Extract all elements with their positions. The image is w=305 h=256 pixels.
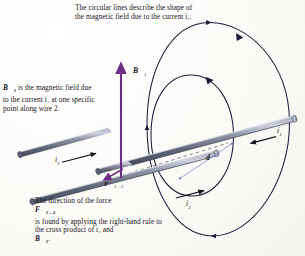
label-current-1: i1 bbox=[277, 126, 282, 137]
figure-canvas: The circular lines describe the shape of… bbox=[0, 0, 305, 256]
label-current-2-right-sub: 2 bbox=[188, 205, 191, 210]
label-b-field-sub: 1 bbox=[144, 72, 147, 77]
label-current-1-sub: 1 bbox=[279, 132, 282, 137]
label-current-2-right: i2 bbox=[186, 199, 191, 210]
caption-bottom-force-symbol: F⃗1→2 bbox=[35, 205, 55, 214]
caption-bottom-line2: is found by applying the right-hand rule… bbox=[35, 217, 162, 235]
caption-left-vector-symbol: B⃗1 bbox=[3, 83, 16, 92]
caption-left: B⃗1 is the magnetic field due to the cur… bbox=[3, 84, 95, 113]
caption-bottom-force-sub: 1→2 bbox=[46, 210, 56, 215]
caption-top: The circular lines describe the shape of… bbox=[75, 4, 197, 21]
current-1-arrow bbox=[251, 137, 277, 144]
label-b-field: B⃗1 bbox=[133, 66, 146, 77]
caption-left-vector-sub: 1 bbox=[14, 88, 16, 93]
wire-2-left-stub bbox=[17, 128, 112, 158]
label-current-2-left: i2 bbox=[55, 155, 60, 166]
caption-left-text: is the magnetic field due to the current… bbox=[3, 83, 95, 113]
caption-bottom-line1: The direction of the force bbox=[35, 196, 111, 205]
caption-bottom: The direction of the force F⃗1→2 is foun… bbox=[35, 197, 163, 247]
current-2-arrow-left bbox=[62, 153, 96, 162]
caption-bottom-period: . bbox=[48, 234, 50, 243]
label-force-sub: 1→2 bbox=[114, 184, 123, 189]
label-force: F⃗1→2 bbox=[104, 180, 123, 189]
field-line-outer bbox=[147, 23, 290, 237]
label-distance: d bbox=[206, 153, 210, 162]
label-current-2-left-sub: 2 bbox=[57, 161, 60, 166]
wire-1-left-segment bbox=[95, 161, 132, 175]
field-line-inner-arrow bbox=[206, 77, 214, 85]
magnetic-field-lines bbox=[147, 23, 290, 237]
caption-bottom-b-symbol: B⃗1 bbox=[35, 234, 48, 243]
field-line-outer-arrow bbox=[236, 33, 243, 41]
